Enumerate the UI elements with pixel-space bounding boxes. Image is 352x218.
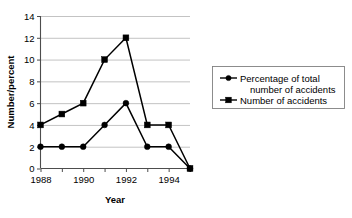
y-axis-tick-labels: 02468101214 bbox=[24, 11, 35, 175]
data-point-circle bbox=[144, 144, 150, 150]
circle-marker-icon bbox=[226, 75, 231, 80]
y-tick-label: 14 bbox=[24, 11, 35, 22]
legend-label-accidents: Number of accidents bbox=[240, 95, 327, 106]
data-point-square bbox=[102, 57, 108, 63]
y-axis-title: Number/percent bbox=[5, 55, 16, 129]
y-tick-label: 10 bbox=[24, 54, 35, 65]
data-point-circle bbox=[59, 144, 65, 150]
data-point-square bbox=[59, 111, 65, 117]
x-axis-tick-labels: 1988199019921994 bbox=[30, 174, 179, 185]
square-marker-icon bbox=[226, 97, 232, 103]
legend-label-percentage-line1: Percentage of total bbox=[240, 73, 320, 84]
data-point-circle bbox=[166, 144, 172, 150]
x-tick-label: 1994 bbox=[159, 174, 180, 185]
data-point-square bbox=[80, 100, 86, 106]
data-point-circle bbox=[38, 144, 44, 150]
line-chart: 02468101214 1988199019921994 Number/perc… bbox=[0, 0, 352, 218]
data-series-group bbox=[38, 35, 193, 172]
legend-label-percentage-line2: number of accidents bbox=[250, 84, 336, 95]
x-tick-label: 1990 bbox=[73, 174, 94, 185]
y-tick-label: 8 bbox=[29, 76, 34, 87]
x-tick-label: 1992 bbox=[116, 174, 137, 185]
data-point-square bbox=[123, 35, 129, 41]
data-point-square bbox=[166, 122, 172, 128]
chart-legend: Percentage of total number of accidents … bbox=[213, 67, 345, 109]
chart-container: 02468101214 1988199019921994 Number/perc… bbox=[0, 0, 352, 218]
data-point-square bbox=[38, 122, 44, 128]
y-tick-label: 2 bbox=[29, 142, 34, 153]
data-point-square bbox=[144, 122, 150, 128]
y-tick-label: 12 bbox=[24, 33, 35, 44]
x-tick-label: 1988 bbox=[30, 174, 51, 185]
y-tick-label: 4 bbox=[29, 120, 34, 131]
data-point-circle bbox=[123, 100, 129, 106]
data-point-circle bbox=[102, 122, 108, 128]
data-point-circle bbox=[80, 144, 86, 150]
y-tick-label: 6 bbox=[29, 98, 34, 109]
data-point-square bbox=[187, 166, 193, 172]
x-axis-title: Year bbox=[105, 194, 125, 205]
